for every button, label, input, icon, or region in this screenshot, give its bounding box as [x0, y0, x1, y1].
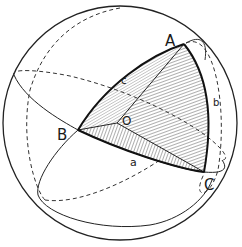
- vertex-label-b: B: [57, 126, 67, 144]
- vertex-label-a: A: [165, 32, 176, 50]
- side-label-a: a: [130, 156, 137, 169]
- side-label-c: c: [121, 75, 127, 86]
- vertex-label-c: C: [204, 176, 214, 194]
- great-circle-back-lower: [45, 160, 160, 201]
- spherical-triangle-diagram: A B C O c b a: [0, 0, 242, 247]
- side-label-b: b: [213, 97, 219, 108]
- vertex-label-o: O: [122, 114, 131, 128]
